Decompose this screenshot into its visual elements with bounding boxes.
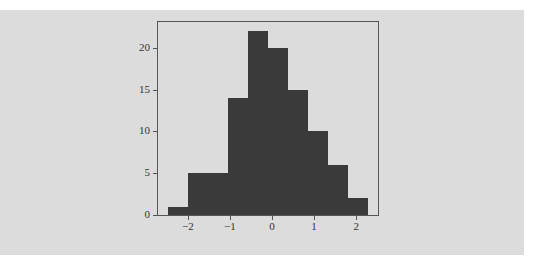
y-tick-label: 20 (130, 41, 150, 53)
histogram-bar (228, 98, 248, 215)
histogram-bar (308, 131, 328, 215)
y-tick-label: 5 (130, 166, 150, 178)
y-tick (153, 173, 157, 174)
histogram-axes (157, 21, 379, 216)
y-tick (153, 131, 157, 132)
histogram-bar (168, 207, 188, 215)
x-tick-label: 1 (304, 220, 324, 232)
histogram-bar (208, 173, 228, 215)
y-tick-label: 0 (130, 208, 150, 220)
x-tick-label: −1 (220, 220, 240, 232)
x-tick-label: −2 (178, 220, 198, 232)
y-tick (153, 215, 157, 216)
y-tick-label: 10 (130, 124, 150, 136)
y-tick (153, 90, 157, 91)
y-tick-label: 15 (130, 83, 150, 95)
histogram-bar (248, 31, 268, 215)
histogram-bar (288, 90, 308, 215)
y-tick (153, 48, 157, 49)
histogram-bar (348, 198, 368, 215)
x-tick-label: 2 (346, 220, 366, 232)
x-tick-label: 0 (262, 220, 282, 232)
histogram-bar (328, 165, 348, 215)
histogram-bar (268, 48, 288, 215)
histogram-bar (188, 173, 208, 215)
